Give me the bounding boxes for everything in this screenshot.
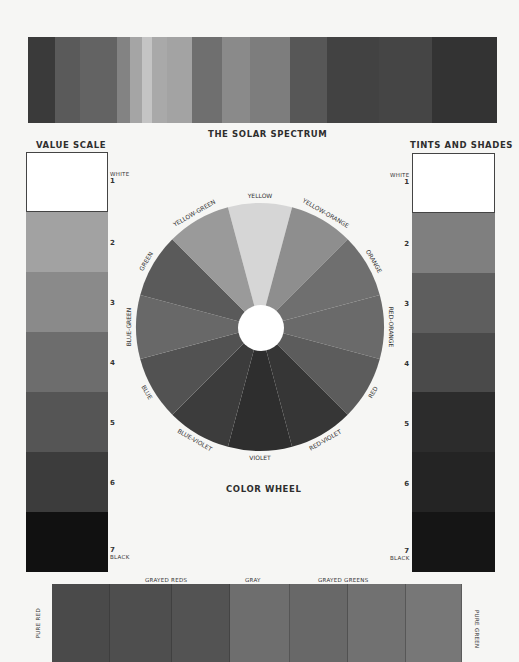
grayed-band [406,584,462,662]
gray-label: GRAY [245,577,261,583]
color-wheel-title: COLOR WHEEL [226,484,301,494]
grayed-band [110,584,172,662]
grayed-band [230,584,290,662]
grayed-colors-strip [52,584,462,662]
grayed-band [172,584,230,662]
wheel-label: RED-ORANGE [388,307,395,348]
grayed-band [290,584,348,662]
wheel-label: YELLOW [247,192,273,199]
color-wheel: YELLOWYELLOW-ORANGEORANGERED-ORANGEREDRE… [0,0,519,662]
wheel-label: VIOLET [249,454,271,461]
grayed-greens-label: GRAYED GREENS [318,577,369,583]
grayed-band [348,584,406,662]
pure-red-label: PURE RED [35,608,41,638]
wheel-center [238,305,284,351]
grayed-band [52,584,110,662]
grayed-reds-label: GRAYED REDS [145,577,187,583]
pure-green-label: PURE GREEN [474,610,480,649]
wheel-label: BLUE-GREEN [125,308,132,347]
